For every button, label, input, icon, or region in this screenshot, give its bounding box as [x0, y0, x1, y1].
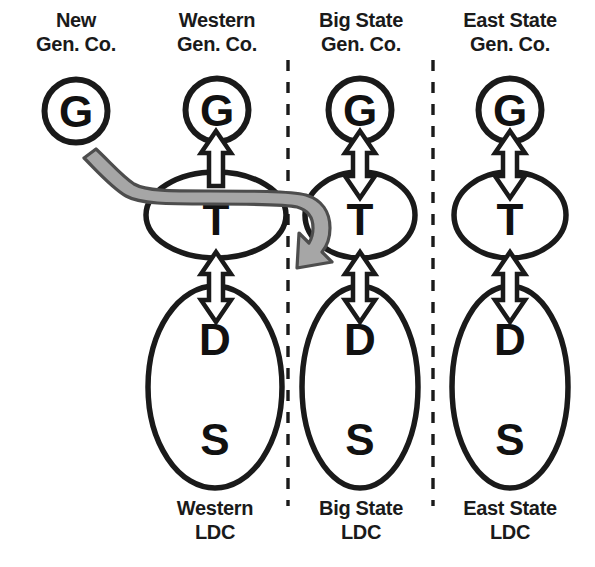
- big-state-node-label-g: G: [343, 86, 377, 135]
- diagram-canvas: G G T D S G T D S G T D S: [0, 0, 595, 567]
- east-state-node-label-t: T: [497, 195, 524, 244]
- column-header-western-line2: Gen. Co.: [147, 32, 287, 56]
- column-header-new-gen-co-line2: Gen. Co.: [6, 32, 146, 56]
- western-node-label-d: D: [199, 315, 231, 364]
- column-header-western: Western Gen. Co.: [147, 8, 287, 56]
- column-footer-big-state-ldc: Big State LDC: [291, 496, 431, 544]
- column-footer-east-state-ldc-line1: East State: [440, 496, 580, 520]
- column-footer-western-ldc-line1: Western: [145, 496, 285, 520]
- east-state-node-label-d: D: [494, 315, 526, 364]
- column-header-new-gen-co-line1: New: [6, 8, 146, 32]
- column-header-east-state: East State Gen. Co.: [440, 8, 580, 56]
- western-node-label-s: S: [200, 415, 229, 464]
- column-footer-western-ldc: Western LDC: [145, 496, 285, 544]
- column-footer-east-state-ldc-line2: LDC: [440, 520, 580, 544]
- western-node-label-g: G: [200, 86, 234, 135]
- big-state-node-label-d: D: [344, 315, 376, 364]
- column-footer-western-ldc-line2: LDC: [145, 520, 285, 544]
- column-header-western-line1: Western: [147, 8, 287, 32]
- column-header-big-state-line1: Big State: [291, 8, 431, 32]
- east-state-node-label-g: G: [493, 86, 527, 135]
- column-header-east-state-line2: Gen. Co.: [440, 32, 580, 56]
- east-state-node-label-s: S: [495, 415, 524, 464]
- column-footer-east-state-ldc: East State LDC: [440, 496, 580, 544]
- column-header-big-state-line2: Gen. Co.: [291, 32, 431, 56]
- new-gen-co-node-label-g: G: [59, 87, 93, 136]
- column-footer-big-state-ldc-line1: Big State: [291, 496, 431, 520]
- column-header-big-state: Big State Gen. Co.: [291, 8, 431, 56]
- big-state-node-label-s: S: [345, 415, 374, 464]
- big-state-node-label-t: T: [347, 195, 374, 244]
- column-header-new-gen-co: New Gen. Co.: [6, 8, 146, 56]
- column-footer-big-state-ldc-line2: LDC: [291, 520, 431, 544]
- column-header-east-state-line1: East State: [440, 8, 580, 32]
- diagram-root: G G T D S G T D S G T D S New Gen. Co. W…: [0, 0, 595, 567]
